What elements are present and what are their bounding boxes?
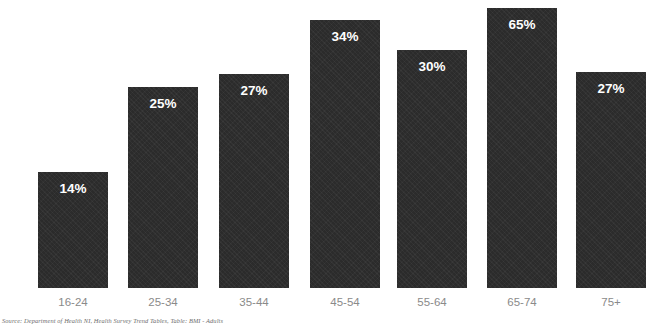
bar-value-label: 34% [310,30,380,44]
bar-group: 14% [38,172,108,288]
bar: 27% [576,72,646,288]
x-axis-label: 75+ [576,296,646,308]
bar-group: 65% [487,8,557,288]
bar-value-label: 30% [397,60,467,74]
x-axis-label: 16-24 [38,296,108,308]
x-axis-label: 35-44 [219,296,289,308]
plot-area: 14% 25% 27% 34% 30% 65% [0,0,646,288]
bar-group: 25% [128,87,198,288]
bar-value-label: 27% [219,84,289,98]
bar: 25% [128,87,198,288]
bar-value-label: 27% [576,82,646,96]
bar: 65% [487,8,557,288]
bar: 34% [310,20,380,288]
bar: 14% [38,172,108,288]
bar-value-label: 14% [38,182,108,196]
bar-group: 27% [576,72,646,288]
bar-group: 34% [310,20,380,288]
bar: 30% [397,50,467,288]
x-axis-label: 25-34 [128,296,198,308]
bar-group: 27% [219,74,289,288]
x-axis-label: 55-64 [397,296,467,308]
bar-value-label: 65% [487,18,557,32]
bar-chart: 14% 25% 27% 34% 30% 65% [0,0,646,332]
bar-group: 30% [397,50,467,288]
source-note: Source: Department of Health NI, Health … [2,317,223,324]
bar-value-label: 25% [128,97,198,111]
x-axis-label: 45-54 [310,296,380,308]
x-axis-labels: 16-24 25-34 35-44 45-54 55-64 65-74 75+ [0,288,646,314]
bar: 27% [219,74,289,288]
x-axis-label: 65-74 [487,296,557,308]
